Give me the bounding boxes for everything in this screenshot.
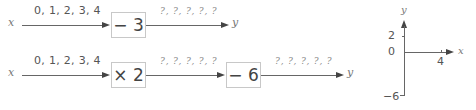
y-tick-label: 0 bbox=[388, 45, 395, 58]
y-tick-2 bbox=[402, 36, 405, 37]
arrow-head-icon bbox=[336, 72, 344, 78]
output-arrow-line bbox=[146, 25, 222, 26]
operation-box-subtract-3: − 3 bbox=[111, 12, 146, 38]
input-arrow-line bbox=[22, 25, 103, 26]
input-values: 0, 1, 2, 3, 4 bbox=[34, 4, 101, 17]
intermediate-arrow-line bbox=[146, 75, 218, 76]
y-tick-label: 2 bbox=[388, 29, 395, 42]
y-tick-label: −6 bbox=[383, 90, 399, 103]
input-variable-x: x bbox=[8, 66, 14, 79]
x-tick-label: 4 bbox=[437, 55, 444, 68]
output-arrow-line bbox=[261, 75, 337, 76]
input-arrow-line bbox=[22, 75, 103, 76]
arrow-head-icon bbox=[221, 22, 229, 28]
input-variable-x: x bbox=[8, 16, 14, 29]
output-values-unknown: ?, ?, ?, ?, ? bbox=[160, 6, 217, 16]
arrow-head-icon bbox=[102, 72, 110, 78]
intermediate-values-unknown: ?, ?, ?, ?, ? bbox=[160, 56, 217, 66]
operation-box-subtract-6: − 6 bbox=[226, 62, 261, 88]
x-axis-label: x bbox=[458, 45, 464, 56]
x-tick-4 bbox=[441, 50, 442, 53]
operation-box-multiply-2: × 2 bbox=[111, 62, 146, 88]
output-values-unknown: ?, ?, ?, ?, ? bbox=[275, 56, 332, 66]
input-values: 0, 1, 2, 3, 4 bbox=[34, 54, 101, 67]
y-tick-neg6 bbox=[400, 95, 405, 96]
output-variable-y: y bbox=[232, 16, 238, 29]
x-axis-arrow-icon bbox=[446, 49, 454, 55]
arrow-head-icon bbox=[217, 72, 225, 78]
output-variable-y: y bbox=[347, 66, 353, 79]
y-axis-label: y bbox=[401, 4, 407, 15]
arrow-head-icon bbox=[102, 22, 110, 28]
